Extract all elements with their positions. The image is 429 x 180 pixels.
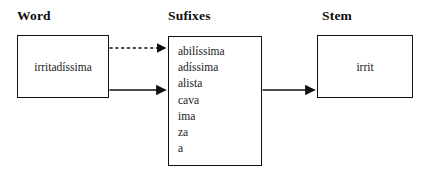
suffix-list-item: adíssima (178, 59, 225, 75)
suffix-list-item: za (178, 124, 225, 140)
suffix-box: abilíssima adíssima alista cava ima za a (168, 36, 262, 166)
word-box: irritadíssima (17, 35, 109, 98)
suffix-list-item: alista (178, 75, 225, 91)
suffix-list-item: a (178, 140, 225, 156)
suffix-list: abilíssima adíssima alista cava ima za a (178, 43, 225, 156)
suffix-list-item: cava (178, 92, 225, 108)
stem-box: irrit (317, 35, 413, 98)
suffix-list-item: abilíssima (178, 43, 225, 59)
word-box-value: irritadíssima (18, 60, 108, 74)
column-heading-sufixes: Sufixes (168, 8, 211, 24)
suffix-list-item: ima (178, 108, 225, 124)
column-heading-word: Word (17, 8, 51, 24)
stem-box-value: irrit (318, 60, 412, 74)
column-heading-stem: Stem (322, 8, 352, 24)
word-suffix-stem-diagram: Word Sufixes Stem irritadíssima abilíssi… (0, 0, 429, 180)
